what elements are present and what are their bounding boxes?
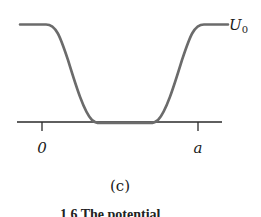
caption-text: 1 6 The potential	[60, 207, 160, 217]
x-tick-label-a: a	[194, 139, 203, 157]
potential-curve	[20, 25, 228, 124]
caption-partial: 1 6 The potential	[0, 207, 261, 217]
x-tick-label-0: 0	[37, 139, 47, 157]
panel-label: (c)	[110, 177, 130, 195]
potential-well-diagram: U0 0 a (c)	[0, 0, 261, 217]
curve-label: U0	[229, 16, 248, 35]
